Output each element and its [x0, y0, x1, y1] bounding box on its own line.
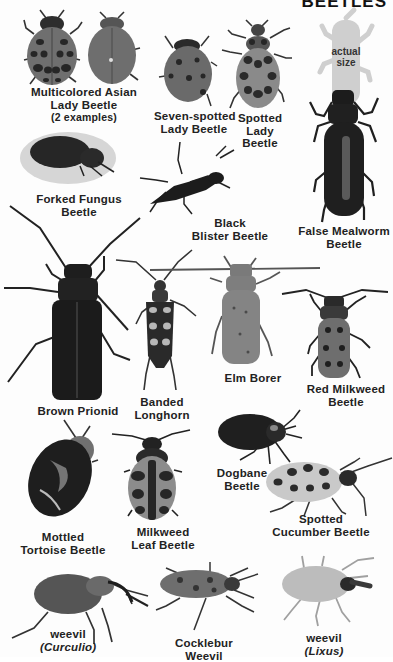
label-weevil-lixus: weevil (Lixus) — [296, 632, 352, 657]
seven-spotted-lady-beetle-image — [157, 32, 219, 106]
label-black-blister-beetle: Black Blister Beetle — [190, 217, 270, 242]
label-milkweed-leaf-beetle: Milkweed Leaf Beetle — [128, 526, 198, 551]
label-mottled-tortoise-beetle: Mottled Tortoise Beetle — [18, 531, 108, 556]
label-brown-prionid: Brown Prionid — [28, 405, 128, 418]
multicolored-asian-lady-beetle-image-2 — [84, 10, 140, 84]
milkweed-leaf-beetle-image — [110, 430, 192, 522]
label-dogbane-beetle: Dogbane Beetle — [214, 467, 270, 492]
red-milkweed-beetle-image — [276, 290, 392, 380]
weevil-lixus-image — [278, 554, 388, 630]
mottled-tortoise-beetle-image — [20, 420, 100, 520]
label-banded-longhorn: Banded Longhorn — [132, 396, 192, 421]
forked-fungus-beetle-image — [20, 132, 120, 194]
label-spotted-cucumber-beetle: Spotted Cucumber Beetle — [268, 513, 374, 538]
false-mealworm-beetle-image — [302, 86, 386, 228]
label-weevil-curculio: weevil (Curculio) — [40, 628, 96, 653]
label-multicolored-asian-lady-beetle: Multicolored Asian Lady Beetle (2 exampl… — [20, 86, 148, 124]
multicolored-asian-lady-beetle-image-1 — [22, 8, 82, 86]
label-seven-spotted-lady-beetle: Seven-spotted Lady Beetle — [154, 110, 234, 135]
spotted-lady-beetle-image — [218, 18, 298, 110]
label-cocklebur-weevil: Cocklebur Weevil — [166, 637, 242, 662]
actual-size-label: actual size — [324, 46, 368, 68]
label-red-milkweed-beetle: Red Milkweed Beetle — [300, 383, 392, 408]
cocklebur-weevil-image — [150, 562, 262, 634]
label-spotted-lady-beetle: Spotted Lady Beetle — [238, 112, 282, 150]
label-false-mealworm-beetle: False Mealworm Beetle — [296, 225, 392, 250]
